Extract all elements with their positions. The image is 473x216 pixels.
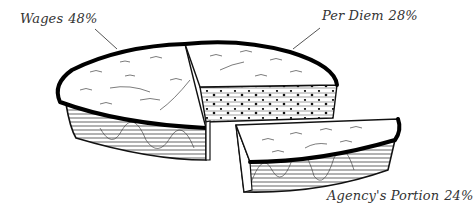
per-diem-label-percent: 28% [389,8,418,23]
agency-portion-label-name: Agency's Portion [327,188,439,203]
wages-label: Wages48% [20,11,97,26]
agency-portion-label-percent: 24% [444,188,473,203]
wages-label-name: Wages [20,11,63,26]
per-diem-label: Per Diem28% [322,8,418,23]
wages-leader-line [95,29,117,49]
wages-label-percent: 48% [68,11,97,26]
agency-portion-slice [236,119,399,192]
per-diem-leader-line [293,28,320,49]
wages-slice [58,44,206,160]
agency-portion-label: Agency's Portion24% [327,188,473,203]
per-diem-label-name: Per Diem [322,8,384,23]
